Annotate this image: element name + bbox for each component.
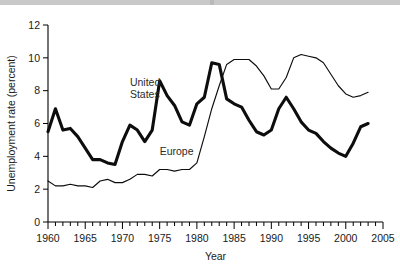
x-tick-label: 1985	[222, 232, 246, 244]
chart-figure: 024681012 196019651970197519801985199019…	[0, 5, 400, 272]
x-tick-label: 1980	[185, 232, 209, 244]
y-tick-label: 8	[34, 84, 40, 96]
y-tick-label: 12	[28, 19, 40, 31]
y-tick-label: 0	[34, 216, 40, 228]
x-tick-label: 2000	[334, 232, 358, 244]
series-label-united-states-line1: United	[130, 76, 161, 88]
series-label-europe: Europe	[160, 145, 194, 157]
x-tick-label: 1995	[297, 232, 321, 244]
unemployment-rate-line-chart: 024681012 196019651970197519801985199019…	[0, 5, 400, 272]
x-tick-label: 1960	[36, 232, 60, 244]
x-axis-title: Year	[205, 250, 227, 262]
y-axis: 024681012	[28, 19, 48, 228]
x-tick-label: 1965	[74, 232, 98, 244]
x-tick-label: 2005	[371, 232, 395, 244]
x-tick-label: 1970	[111, 232, 135, 244]
y-tick-label: 4	[34, 150, 40, 162]
series-label-united-states-line2: States	[130, 88, 160, 100]
x-tick-label: 1975	[148, 232, 172, 244]
x-tick-label: 1990	[260, 232, 284, 244]
series-group	[48, 55, 368, 188]
y-tick-label: 2	[34, 183, 40, 195]
y-tick-label: 10	[28, 52, 40, 64]
x-axis: 1960196519701975198019851990199520002005	[36, 222, 395, 244]
series-line-united-states	[48, 63, 368, 165]
y-tick-label: 6	[34, 117, 40, 129]
y-axis-title: Unemployment rate (percent)	[5, 55, 17, 192]
